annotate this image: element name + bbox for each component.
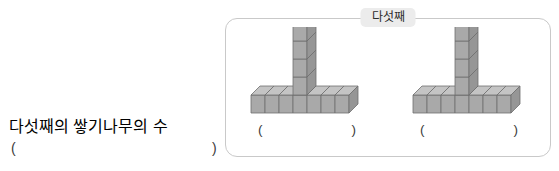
- block-stack-diagram: [245, 27, 369, 119]
- question-block: 다섯째의 쌓기나무의 수 ( ): [9, 113, 221, 160]
- paren-close: ): [212, 138, 217, 158]
- figures-row: ( ): [226, 19, 550, 156]
- block-stack-diagram: [407, 27, 531, 119]
- figure-panel: 다섯째: [225, 18, 551, 157]
- figure-answer-blank[interactable]: ( ): [258, 120, 356, 140]
- block-figure-left: ( ): [232, 19, 382, 156]
- question-answer-blank[interactable]: ( ): [9, 138, 221, 160]
- paren-close: ): [514, 120, 519, 140]
- question-label: 다섯째의 쌓기나무의 수: [9, 113, 221, 137]
- block-figure-right: ( ): [394, 19, 544, 156]
- paren-close: ): [352, 120, 357, 140]
- figure-answer-blank[interactable]: ( ): [420, 120, 518, 140]
- paren-open: (: [11, 138, 16, 158]
- paren-open: (: [258, 120, 263, 140]
- paren-open: (: [420, 120, 425, 140]
